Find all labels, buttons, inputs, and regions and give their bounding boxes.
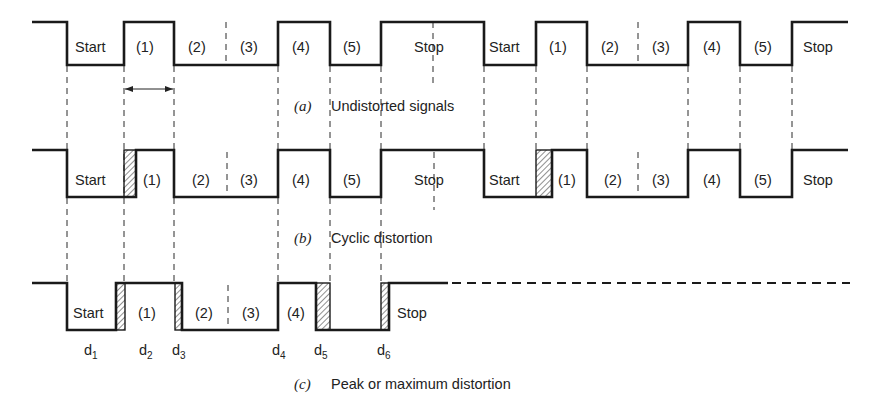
marker-d1: d1 [84,342,98,361]
label-bit: (5) [343,39,361,55]
label-stop: Stop [414,39,444,55]
label-bit: (1) [136,39,154,55]
label-bit: (4) [292,39,310,55]
label-stop: Stop [414,172,444,188]
label-bit: (1) [558,172,576,188]
label-stop: Stop [803,172,833,188]
bit-width-arrow [125,86,173,92]
label-start: Start [73,305,104,321]
label-bit: (5) [343,172,361,188]
label-bit: (3) [240,39,258,55]
label-bit: (1) [143,172,161,188]
caption-b: Cyclic distortion [331,230,433,246]
distortion-hatch [116,283,125,330]
label-start: Start [489,172,520,188]
caption-letter-b: (b) [294,230,312,247]
distortion-diagram: Start (1) (2) (3) (4) (5) Stop Start (1)… [0,0,875,411]
panel-b-cyclic: Start (1) (2) (3) (4) (5) Stop Start (1)… [32,150,848,247]
panel-a-undistorted: Start (1) (2) (3) (4) (5) Stop Start (1)… [32,22,848,115]
label-start: Start [75,39,106,55]
caption-a: Undistorted signals [331,98,454,114]
label-bit: (2) [188,39,206,55]
label-bit: (4) [292,172,310,188]
label-bit: (5) [754,172,772,188]
caption-letter-a: (a) [294,98,312,115]
distortion-hatch [536,150,552,197]
label-bit: (4) [703,172,721,188]
label-bit: (3) [240,172,258,188]
marker-d2: d2 [139,342,153,361]
label-start: Start [489,39,520,55]
label-start: Start [75,172,106,188]
marker-d6: d6 [377,342,391,361]
label-bit: (2) [192,172,210,188]
distortion-markers: d1 d2 d3 d4 d5 d6 [84,342,391,361]
label-stop: Stop [397,305,427,321]
label-bit: (2) [195,305,213,321]
label-bit: (1) [549,39,567,55]
label-bit: (2) [604,172,622,188]
caption-c: Peak or maximum distortion [331,376,511,392]
marker-d4: d4 [272,342,286,361]
distortion-hatch [124,150,136,197]
label-stop: Stop [803,39,833,55]
marker-d3: d3 [172,342,186,361]
label-bit: (1) [138,305,156,321]
label-bit: (4) [703,39,721,55]
label-bit: (3) [652,39,670,55]
label-bit: (3) [242,305,260,321]
caption-letter-c: (c) [294,376,311,393]
label-bit: (3) [652,172,670,188]
distortion-hatch [316,283,330,330]
label-bit: (5) [754,39,772,55]
marker-d5: d5 [314,342,328,361]
panel-c-peak: Start (1) (2) (3) (4) Stop d1 d2 d3 d4 d… [32,283,850,393]
label-bit: (4) [287,305,305,321]
label-bit: (2) [601,39,619,55]
